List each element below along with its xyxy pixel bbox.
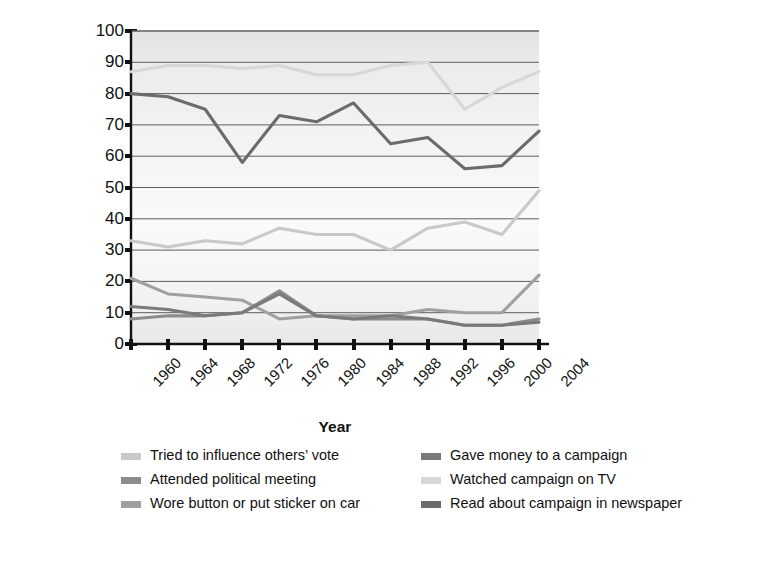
y-tick-label: 10 [84,304,124,321]
y-tick-label: 60 [84,147,124,164]
legend-column-right: Gave money to a campaignWatched campaign… [421,446,721,550]
x-tick-label: 1960 [149,354,185,390]
x-tick-mark [352,339,356,350]
x-tick-label: 1988 [408,354,444,390]
x-axis-tick-marks [131,339,539,350]
legend-item[interactable]: Gave money to a campaign [421,446,721,466]
x-tick-label: 1992 [445,354,481,390]
y-tick-label: 70 [84,116,124,133]
series-line [131,62,539,109]
x-tick-label: 1976 [297,354,333,390]
y-tick-label: 40 [84,210,124,227]
series-line [131,191,539,250]
legend-item-label: Wore button or put sticker on car [150,494,360,513]
y-axis-tick-labels: 1009080706050403020100 [78,31,124,344]
legend-swatch-icon [421,477,441,484]
x-tick-label: 1968 [223,354,259,390]
y-tick-label: 90 [84,53,124,70]
y-tick-label: 20 [84,272,124,289]
legend-item-label: Watched campaign on TV [450,470,616,489]
series-line [131,94,539,169]
legend-item-label: Tried to influence others’ vote [150,446,339,465]
x-tick-label: 2000 [520,354,556,390]
x-tick-mark [463,339,467,350]
x-tick-mark [314,339,318,350]
legend-swatch-icon [421,501,441,508]
legend-swatch-icon [421,453,441,460]
x-tick-mark [537,339,541,350]
chart-figure: Electoral Participation (in percent) 100… [0,0,773,564]
x-tick-mark [500,339,504,350]
x-tick-mark [426,339,430,350]
x-tick-label: 1964 [186,354,222,390]
chart-legend: Tried to influence others’ voteAttended … [121,446,761,550]
y-tick-label: 30 [84,241,124,258]
x-tick-mark [277,339,281,350]
y-tick-label: 50 [84,179,124,196]
chart-lines [131,31,539,344]
x-tick-mark [203,339,207,350]
x-tick-mark [240,339,244,350]
y-tick-label: 0 [84,335,124,352]
legend-item-label: Attended political meeting [150,470,316,489]
x-axis-title: Year [131,418,539,436]
x-tick-label: 2004 [557,354,593,390]
x-tick-mark [166,339,170,350]
legend-column-left: Tried to influence others’ voteAttended … [121,446,421,550]
y-tick-label: 100 [84,22,124,39]
series-line [131,294,539,325]
x-tick-mark [389,339,393,350]
legend-swatch-icon [121,453,141,460]
legend-item[interactable]: Wore button or put sticker on car [121,494,421,514]
x-tick-label: 1980 [334,354,370,390]
legend-item[interactable]: Watched campaign on TV [421,470,721,490]
legend-swatch-icon [121,477,141,484]
x-tick-label: 1996 [483,354,519,390]
legend-item-label: Gave money to a campaign [450,446,627,465]
legend-swatch-icon [121,501,141,508]
legend-item[interactable]: Attended political meeting [121,470,421,490]
y-tick-label: 80 [84,85,124,102]
x-tick-label: 1984 [371,354,407,390]
legend-item[interactable]: Tried to influence others’ vote [121,446,421,466]
x-axis-tick-labels: 1960196419681972197619801984198819921996… [131,354,539,410]
legend-item-label: Read about campaign in newspaper [450,494,682,513]
y-axis-title: Electoral Participation (in percent) [14,44,64,344]
x-tick-label: 1972 [260,354,296,390]
legend-item[interactable]: Read about campaign in newspaper [421,494,721,514]
plot-area [131,31,539,344]
x-tick-mark [129,339,133,350]
